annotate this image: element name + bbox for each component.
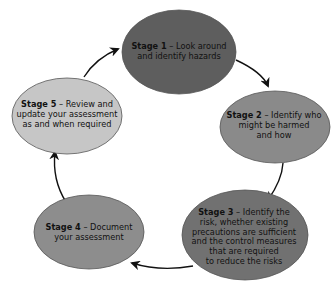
stage-5-text-line: update your assessment (17, 109, 119, 119)
stage-1-label: Stage 1 – Look aroundand identify hazard… (131, 41, 226, 61)
stage-3-text-line: that are required (209, 246, 278, 256)
stage-2-text-line: might be harmed (239, 120, 310, 130)
stage-5-description-start: – Review and (56, 99, 113, 109)
stage-2-text-line: Stage 2 – Identify who (227, 110, 322, 120)
stage-4-text-line: Stage 4 – Document (45, 222, 133, 232)
stage-4-text-line: your assessment (54, 232, 124, 242)
stage-3-label: Stage 3 – Identify therisk, whether exis… (191, 207, 296, 266)
stage-3-title: Stage 3 (198, 207, 234, 217)
risk-assessment-cycle-diagram: Stage 1 – Look aroundand identify hazard… (0, 0, 335, 285)
stage-5-label: Stage 5 – Review andupdate your assessme… (17, 99, 119, 129)
stage-5-node: Stage 5 – Review andupdate your assessme… (12, 78, 122, 154)
stage-2-text-line: and how (257, 130, 292, 140)
stage-1-description-start: – Look around (167, 41, 227, 51)
arrow-stage5-to-stage1 (84, 49, 118, 77)
stage-4-title: Stage 4 (45, 222, 81, 232)
arrow-stage4-to-stage5 (54, 152, 66, 202)
stage-2-node: Stage 2 – Identify whomight be harmedand… (220, 91, 330, 163)
stage-3-text-line: Stage 3 – Identify the (198, 207, 290, 217)
stage-3-text-line: and the control measures (191, 236, 296, 246)
arrow-stage3-to-stage4 (132, 263, 193, 268)
stage-5-title: Stage 5 (21, 99, 57, 109)
stage-1-node: Stage 1 – Look aroundand identify hazard… (122, 10, 236, 94)
stage-3-node: Stage 3 – Identify therisk, whether exis… (182, 190, 308, 280)
stage-2-description-start: – Identify who (262, 110, 322, 120)
stage-4-label: Stage 4 – Documentyour assessment (45, 222, 133, 242)
stage-3-description-start: – Identify the (234, 207, 290, 217)
stage-4-description-start: – Document (81, 222, 134, 232)
arrow-stage1-to-stage2 (236, 60, 268, 86)
stage-1-text-line: and identify hazards (137, 51, 221, 61)
stage-1-title: Stage 1 (131, 41, 167, 51)
stage-2-title: Stage 2 (227, 110, 262, 120)
stage-3-text-line: risk, whether existing (200, 217, 288, 227)
stage-4-node: Stage 4 – Documentyour assessment (34, 195, 144, 269)
stage-3-text-line: to reduce the risks (206, 256, 283, 266)
stage-5-text-line: as and when required (23, 119, 112, 129)
stage-5-text-line: Stage 5 – Review and (21, 99, 113, 109)
stage-3-text-line: precautions are sufficient (192, 227, 297, 237)
stage-1-text-line: Stage 1 – Look around (131, 41, 226, 51)
